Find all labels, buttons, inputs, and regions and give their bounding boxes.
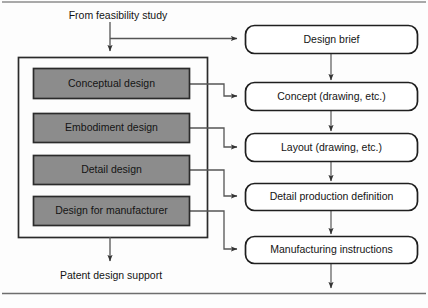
stage-label-conceptual[interactable]: Conceptual design [33,68,190,99]
stage-label-dfm[interactable]: Design for manufacturer [33,196,190,226]
artifact-label-design-brief[interactable]: Design brief [245,25,418,54]
connector-embodiment-to-layout [190,128,237,147]
output-label: Patent design support [26,268,196,284]
stage-label-detail[interactable]: Detail design [33,155,190,185]
artifact-label-manufacturing[interactable]: Manufacturing instructions [245,236,418,264]
connector-dfm-to-manufacturing [190,211,237,249]
diagram-canvas: From feasibility study Patent design sup… [0,0,428,308]
connector-detail-to-detail-production [190,170,237,196]
artifact-label-concept[interactable]: Concept (drawing, etc.) [245,82,418,111]
stage-label-embodiment[interactable]: Embodiment design [33,113,190,143]
artifact-label-layout[interactable]: Layout (drawing, etc.) [245,133,418,162]
input-label: From feasibility study [38,8,198,24]
connector-conceptual-to-concept [190,84,237,96]
artifact-label-detail-production[interactable]: Detail production definition [245,183,418,211]
